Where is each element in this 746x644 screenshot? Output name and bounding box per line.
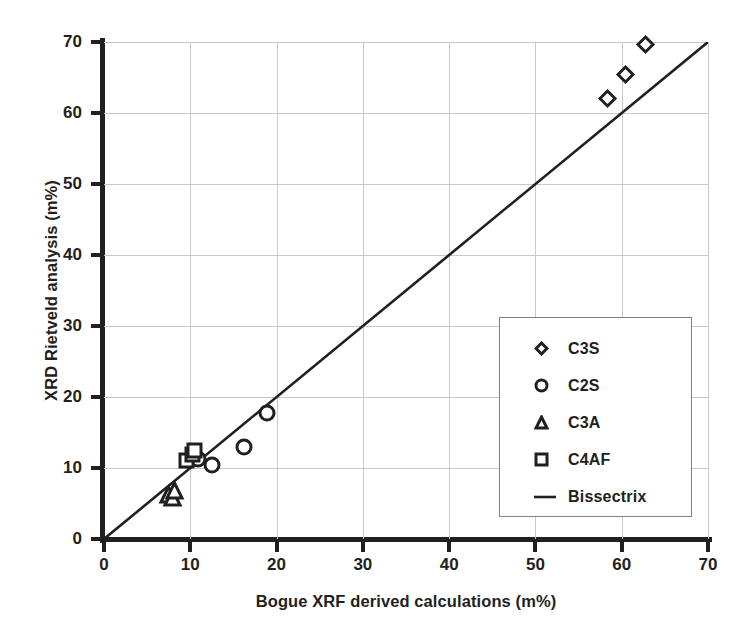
data-point-c2s xyxy=(203,456,221,474)
y-axis-tick-label: 0 xyxy=(30,530,82,547)
x-axis-title: Bogue XRF derived calculations (m%) xyxy=(104,592,708,611)
legend-item-c3a: C3A xyxy=(500,404,691,441)
x-axis-tick xyxy=(533,541,537,552)
y-axis-tick-label: 30 xyxy=(30,317,82,334)
data-point-c3s xyxy=(598,89,617,108)
x-axis-tick xyxy=(620,541,624,552)
x-axis-tick-label: 20 xyxy=(254,556,300,573)
y-axis-tick-label: 40 xyxy=(30,246,82,263)
x-axis-tick-label: 10 xyxy=(167,556,213,573)
x-axis-tick-label: 0 xyxy=(81,556,127,573)
y-axis-tick-label: 10 xyxy=(30,459,82,476)
x-axis-tick xyxy=(188,541,192,552)
y-axis-tick-label: 60 xyxy=(30,104,82,121)
legend-item-c3s: C3S xyxy=(500,330,691,367)
legend-item-bissectrix: Bissectrix xyxy=(500,478,691,515)
x-axis-tick xyxy=(275,541,279,552)
data-point-c4af xyxy=(186,442,203,459)
square-icon xyxy=(534,449,560,471)
data-point-c2s xyxy=(258,404,276,422)
x-axis-tick xyxy=(361,541,365,552)
scatter-chart: XRD Rietveld analysis (m%) Bogue XRF der… xyxy=(0,0,746,644)
line-icon xyxy=(534,486,560,508)
data-point-c2s xyxy=(235,438,253,456)
x-axis-tick-label: 40 xyxy=(426,556,472,573)
data-point-c3a xyxy=(165,481,184,500)
legend-item-label: C3S xyxy=(568,340,600,358)
legend-item-c4af: C4AF xyxy=(500,441,691,478)
legend-item-label: C3A xyxy=(568,414,601,432)
x-axis-tick-label: 60 xyxy=(599,556,645,573)
x-axis-tick xyxy=(447,541,451,552)
data-point-c3s xyxy=(636,35,655,54)
y-axis-tick-label: 50 xyxy=(30,175,82,192)
x-axis-tick-label: 50 xyxy=(512,556,558,573)
diamond-icon xyxy=(534,338,560,360)
legend-item-label: C2S xyxy=(568,377,600,395)
y-axis-tick-label: 20 xyxy=(30,388,82,405)
circle-icon xyxy=(534,375,560,397)
gridline-vertical xyxy=(708,42,709,539)
data-point-c3s xyxy=(616,65,635,84)
legend-item-label: Bissectrix xyxy=(568,488,647,506)
x-axis-tick-label: 70 xyxy=(685,556,731,573)
legend-item-label: C4AF xyxy=(568,451,611,469)
y-axis-tick-label: 70 xyxy=(30,33,82,50)
legend: C3SC2SC3AC4AFBissectrix xyxy=(499,317,692,517)
x-axis-tick-label: 30 xyxy=(340,556,386,573)
x-axis-tick xyxy=(706,541,710,552)
legend-item-c2s: C2S xyxy=(500,367,691,404)
triangle-icon xyxy=(534,412,560,434)
